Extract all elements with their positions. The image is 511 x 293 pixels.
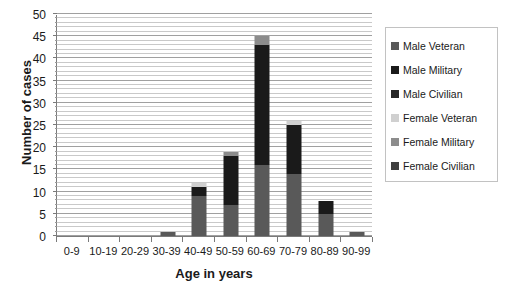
y-tick-mark [55, 160, 57, 161]
legend-item[interactable]: Female Veteran [391, 106, 492, 130]
legend-swatch-icon [391, 114, 399, 122]
y-tick-mark [55, 208, 57, 209]
x-axis-tick-label: 20-29 [121, 245, 149, 257]
x-axis-tick-label: 80-89 [311, 245, 339, 257]
stacked-bar[interactable] [192, 183, 207, 236]
x-tick-mark [88, 237, 89, 242]
y-tick-mark [55, 66, 57, 67]
y-tick-mark [55, 120, 57, 121]
legend-item-label: Female Military [403, 136, 474, 148]
stacked-bar[interactable] [286, 121, 301, 236]
legend-swatch-icon [391, 138, 399, 146]
legend-item[interactable]: Male Veteran [391, 34, 492, 58]
bar-segment [286, 174, 301, 236]
legend-item-label: Male Civilian [403, 88, 463, 100]
x-axis-tick-label: 50-59 [216, 245, 244, 257]
legend-item-label: Female Veteran [403, 112, 477, 124]
y-tick-mark [55, 155, 57, 156]
legend-swatch-icon [391, 66, 399, 74]
y-tick-mark [55, 186, 57, 187]
legend-item[interactable]: Male Military [391, 58, 492, 82]
y-axis-tick-label: 30 [20, 97, 46, 111]
bar-chart: Number of cases 05101520253035404550 0-9… [0, 0, 511, 293]
bar-segment [192, 196, 207, 236]
stacked-bar[interactable] [255, 36, 270, 236]
x-tick-mark [309, 237, 310, 242]
y-tick-mark [53, 35, 57, 36]
y-tick-mark [55, 226, 57, 227]
x-axis-tick-labels: 0-910-1920-2930-3940-4950-5960-6970-7980… [56, 245, 372, 261]
y-axis-tick-label: 5 [20, 208, 46, 222]
legend-item-label: Male Military [403, 64, 462, 76]
bar-segment [255, 45, 270, 165]
x-tick-mark [182, 237, 183, 242]
bar-segment [350, 232, 365, 236]
y-tick-mark [55, 84, 57, 85]
y-tick-mark [55, 231, 57, 232]
y-tick-mark [53, 124, 57, 125]
y-axis-tick-label: 35 [20, 75, 46, 89]
y-tick-mark [55, 164, 57, 165]
x-tick-mark [340, 237, 341, 242]
bar-segment [318, 214, 333, 236]
y-axis-tick-label: 25 [20, 119, 46, 133]
bar-group [183, 15, 215, 236]
y-tick-mark [55, 182, 57, 183]
bar-segment [286, 121, 301, 125]
y-tick-mark [53, 191, 57, 192]
bar-group [247, 15, 279, 236]
x-tick-mark [372, 237, 373, 242]
y-tick-mark [55, 93, 57, 94]
y-tick-mark [55, 26, 57, 27]
y-tick-mark [55, 22, 57, 23]
stacked-bar[interactable] [350, 232, 365, 236]
y-tick-mark [55, 71, 57, 72]
y-tick-mark [55, 97, 57, 98]
legend-item[interactable]: Male Civilian [391, 82, 492, 106]
y-tick-mark [53, 80, 57, 81]
y-tick-mark [55, 204, 57, 205]
stacked-bar[interactable] [223, 152, 238, 236]
legend-item-label: Male Veteran [403, 40, 465, 52]
y-tick-mark [53, 168, 57, 169]
x-axis-tick-label: 40-49 [184, 245, 212, 257]
bar-segment [192, 183, 207, 187]
x-tick-mark [246, 237, 247, 242]
y-tick-mark [53, 102, 57, 103]
y-tick-mark [55, 177, 57, 178]
y-tick-mark [55, 31, 57, 32]
stacked-bar[interactable] [160, 232, 175, 236]
bar-segment [318, 201, 333, 214]
legend-item[interactable]: Female Military [391, 130, 492, 154]
x-axis-tick-label: 90-99 [342, 245, 370, 257]
y-tick-mark [55, 75, 57, 76]
x-tick-mark [214, 237, 215, 242]
y-tick-mark [55, 199, 57, 200]
legend-swatch-icon [391, 42, 399, 50]
x-axis-tick-label: 60-69 [247, 245, 275, 257]
bar-segment [255, 36, 270, 45]
y-tick-mark [55, 151, 57, 152]
y-tick-mark [53, 213, 57, 214]
y-tick-mark [55, 137, 57, 138]
stacked-bar[interactable] [318, 200, 333, 236]
bar-segment [255, 165, 270, 236]
legend-item[interactable]: Female Civilian [391, 154, 492, 178]
y-tick-mark [55, 44, 57, 45]
y-axis-tick-label: 50 [20, 8, 46, 22]
y-tick-mark [55, 142, 57, 143]
bar-segment [286, 125, 301, 174]
y-tick-mark [55, 17, 57, 18]
bar-segment [192, 187, 207, 196]
bar-segment [223, 156, 238, 205]
y-axis-tick-label: 10 [20, 186, 46, 200]
x-axis-title: Age in years [56, 266, 372, 281]
legend-swatch-icon [391, 162, 399, 170]
y-tick-mark [53, 146, 57, 147]
x-axis-tick-label: 30-39 [153, 245, 181, 257]
y-tick-mark [55, 49, 57, 50]
x-tick-mark [277, 237, 278, 242]
y-tick-mark [55, 128, 57, 129]
bar-group [120, 15, 152, 236]
y-tick-mark [55, 217, 57, 218]
